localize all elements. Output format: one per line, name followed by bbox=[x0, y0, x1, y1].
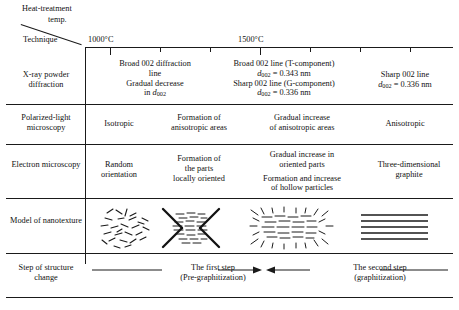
cell-line: Gradual increase in bbox=[240, 150, 364, 160]
nanotexture-model-random-fragments bbox=[96, 206, 154, 250]
step-label-second: The second step (graphitization) bbox=[328, 263, 432, 283]
row-divider bbox=[6, 144, 453, 145]
step-subtitle: (graphitization) bbox=[328, 273, 432, 283]
cell-polarized-col2: Formation of anisotropic areas bbox=[150, 113, 248, 133]
nanotexture-model-hollow-particles bbox=[248, 206, 334, 250]
cell-polarized-col1: Isotropic bbox=[88, 119, 150, 129]
axis-tick-minor bbox=[310, 47, 311, 52]
column-axis-title-line2: temp. bbox=[48, 15, 67, 25]
row-label-line: X-ray powder diffraction bbox=[8, 70, 84, 90]
row-label-polarized-light-microscopy: Polarized-light microscopy bbox=[8, 113, 84, 133]
row-divider bbox=[6, 253, 453, 254]
axis-tick-minor bbox=[210, 47, 211, 52]
row-label-line: Model of nanotexture bbox=[8, 216, 84, 226]
cell-polarized-col3: Gradual increase of anisotropic areas bbox=[248, 113, 356, 133]
cell-line: Gradual increase bbox=[248, 113, 356, 123]
step-title: The second step bbox=[328, 263, 432, 273]
cell-line: Formation of bbox=[150, 113, 248, 123]
nanotexture-evolution-figure: Heat-treatment temp. Technique 1000°C 15… bbox=[0, 0, 459, 310]
cell-line-d002: in d002 bbox=[94, 88, 216, 98]
row-label-model-of-nanotexture: Model of nanotexture bbox=[8, 216, 84, 226]
cell-line-d002: d002 = 0.336 nm bbox=[355, 80, 455, 90]
cell-line: of hollow particles bbox=[240, 183, 364, 193]
axis-tick-1500C bbox=[260, 47, 261, 55]
axis-tick-minor bbox=[410, 47, 411, 52]
cell-line: orientation bbox=[88, 170, 150, 180]
axis-label-1500C: 1500°C bbox=[238, 35, 263, 44]
cell-line: Broad 002 line (T-component) bbox=[214, 59, 354, 69]
step-title: The first step bbox=[163, 263, 263, 273]
cell-line: line bbox=[94, 69, 216, 79]
cell-line: Random bbox=[88, 160, 150, 170]
cell-line: of anisotropic areas bbox=[248, 123, 356, 133]
cell-line: oriented parts bbox=[240, 160, 364, 170]
row-label-xray-diffraction: X-ray powder diffraction bbox=[8, 70, 84, 90]
row-divider bbox=[6, 198, 453, 199]
cell-line: the parts bbox=[150, 164, 248, 174]
row-label-electron-microscopy: Electron microscopy bbox=[8, 160, 84, 170]
row-label-line: Electron microscopy bbox=[8, 160, 84, 170]
row-divider-bottom bbox=[6, 297, 453, 298]
row-divider bbox=[6, 104, 453, 105]
cell-line: Broad 002 diffraction bbox=[94, 59, 216, 69]
cell-line-d002: d002 = 0.336 nm bbox=[214, 88, 354, 98]
nanotexture-model-parallel-layers bbox=[358, 212, 432, 244]
cell-xray-col3: Broad 002 line (T-component) d002 = 0.34… bbox=[214, 59, 354, 98]
label-column-divider bbox=[85, 47, 86, 264]
cell-electron-col2: Formation of the parts locally oriented bbox=[150, 154, 248, 183]
nanotexture-model-bowtie-oriented bbox=[160, 206, 222, 250]
row-axis-title: Technique bbox=[23, 35, 57, 45]
step-subtitle: (Pre-graphitization) bbox=[163, 273, 263, 283]
axis-tick-1000C bbox=[110, 47, 111, 55]
axis-tick-minor bbox=[360, 47, 361, 52]
row-label-line: Polarized-light microscopy bbox=[8, 113, 84, 133]
cell-line: locally oriented bbox=[150, 174, 248, 184]
cell-line: graphite bbox=[362, 170, 456, 180]
cell-polarized-col4: Anisotropic bbox=[356, 119, 454, 129]
cell-line-d002: d002 = 0.343 nm bbox=[214, 69, 354, 79]
cell-line: Gradual decrease bbox=[94, 79, 216, 89]
row-label-step-of-structure-change: Step of structure change bbox=[8, 263, 84, 283]
cell-line: Anisotropic bbox=[356, 119, 454, 129]
cell-line: Formation of bbox=[150, 154, 248, 164]
cell-electron-col1: Random orientation bbox=[88, 160, 150, 180]
cell-line: Formation and increase bbox=[240, 174, 364, 184]
cell-line: Sharp 002 line (G-component) bbox=[214, 79, 354, 89]
axis-label-1000C: 1000°C bbox=[88, 35, 113, 44]
cell-xray-col4: Sharp 002 line d002 = 0.336 nm bbox=[355, 70, 455, 90]
cell-line: anisotropic areas bbox=[150, 123, 248, 133]
temperature-axis-line bbox=[85, 47, 453, 48]
row-label-line: Step of structure change bbox=[8, 263, 84, 283]
cell-electron-col4: Three-dimensional graphite bbox=[362, 160, 456, 180]
cell-xray-col2: Broad 002 diffraction line Gradual decre… bbox=[94, 59, 216, 98]
cell-line: Three-dimensional bbox=[362, 160, 456, 170]
column-axis-title-line1: Heat-treatment bbox=[22, 4, 72, 14]
step-label-first: The first step (Pre-graphitization) bbox=[163, 263, 263, 283]
cell-electron-col3: Gradual increase in oriented parts Forma… bbox=[240, 150, 364, 193]
axis-tick-minor bbox=[160, 47, 161, 52]
cell-line: Sharp 002 line bbox=[355, 70, 455, 80]
cell-line: Isotropic bbox=[88, 119, 150, 129]
